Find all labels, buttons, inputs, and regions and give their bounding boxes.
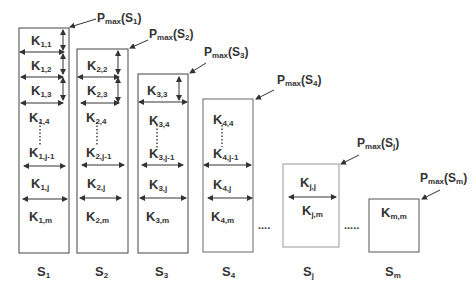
ellipsis-separator: .... xyxy=(258,219,270,231)
pmax-label-sm: Pmax(Sm) xyxy=(420,171,467,186)
svg-text:K3,m: K3,m xyxy=(146,209,169,225)
svg-text:K4,j-1: K4,j-1 xyxy=(213,146,239,162)
svg-text:Kj,m: Kj,m xyxy=(302,203,323,219)
svg-text:K2,m: K2,m xyxy=(86,209,109,225)
stack-label-s2: S2 xyxy=(95,264,109,280)
svg-text:K1,1: K1,1 xyxy=(31,33,52,49)
stack-label-sm: Sm xyxy=(385,264,401,280)
pmax-pointer-arrow xyxy=(190,63,206,73)
pmax-pointer-arrow xyxy=(256,90,274,99)
svg-text:K4,j: K4,j xyxy=(213,177,231,193)
column-s3: K3,3 K3,4 K3,j-1 K3,j K3,m Pmax(S3) S3 xyxy=(138,45,248,280)
svg-text:K4,4: K4,4 xyxy=(213,112,234,128)
svg-text:K1,j-1: K1,j-1 xyxy=(29,145,55,161)
ellipsis-separator: ..... xyxy=(344,219,359,231)
stack-box-s3 xyxy=(138,74,188,253)
stack-label-sj: Sj xyxy=(303,264,314,280)
pmax-label-s4: Pmax(S4) xyxy=(277,73,321,88)
column-s1: K1,1 K1,2 K1,3 K1,4 K1,j-1 K1,j K1,m Pma… xyxy=(19,11,141,280)
stack-label-s1: S1 xyxy=(37,264,51,280)
svg-text:K3,j-1: K3,j-1 xyxy=(149,146,175,162)
svg-text:K3,3: K3,3 xyxy=(147,83,168,99)
svg-text:K1,3: K1,3 xyxy=(31,83,52,99)
pmax-label-s1: Pmax(S1) xyxy=(97,11,141,26)
svg-text:K4,m: K4,m xyxy=(211,209,234,225)
pmax-pointer-arrow xyxy=(70,19,96,27)
svg-text:K2,4: K2,4 xyxy=(86,110,107,126)
pmax-label-sj: Pmax(Sj) xyxy=(357,136,399,151)
pmax-pointer-arrow xyxy=(130,40,148,48)
svg-text:K1,j: K1,j xyxy=(31,176,49,192)
pmax-label-s2: Pmax(S2) xyxy=(149,27,193,42)
stack-label-s4: S4 xyxy=(222,264,236,280)
column-s2: K2,2 K2,3 K2,4 K2,j-1 K2,j K2,m Pmax(S2)… xyxy=(77,27,193,280)
svg-text:Kj,j: Kj,j xyxy=(300,175,316,191)
svg-text:K2,j: K2,j xyxy=(87,176,105,192)
pmax-pointer-arrow xyxy=(422,190,440,199)
svg-text:K2,3: K2,3 xyxy=(87,83,108,99)
svg-text:K1,m: K1,m xyxy=(29,209,52,225)
svg-text:K2,j-1: K2,j-1 xyxy=(86,145,112,161)
stack-diagram: K1,1 K1,2 K1,3 K1,4 K1,j-1 K1,j K1,m Pma… xyxy=(0,0,476,292)
stack-box-sm xyxy=(369,199,419,252)
column-sm: Km,m Pmax(Sm) Sm xyxy=(369,171,467,280)
pmax-label-s3: Pmax(S3) xyxy=(204,45,248,60)
stack-label-s3: S3 xyxy=(155,264,169,280)
svg-text:K2,2: K2,2 xyxy=(87,58,108,74)
svg-text:K3,j: K3,j xyxy=(149,177,167,193)
svg-text:Km,m: Km,m xyxy=(381,205,407,221)
pmax-pointer-arrow xyxy=(341,155,359,164)
svg-text:K1,2: K1,2 xyxy=(31,58,52,74)
svg-text:K3,4: K3,4 xyxy=(149,113,170,129)
svg-text:K1,4: K1,4 xyxy=(29,110,50,126)
